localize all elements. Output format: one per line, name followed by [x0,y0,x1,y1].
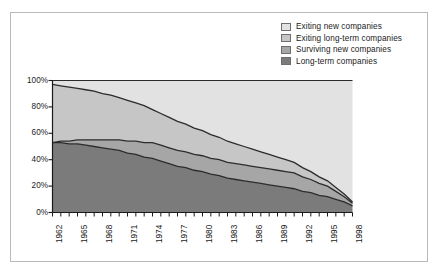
x-axis-tick-label: 1992 [306,225,314,243]
y-axis-tick-label: 60% [32,129,48,137]
x-axis-tick-label: 1962 [56,225,64,243]
y-axis-tick-label: 20% [32,182,48,190]
x-axis-tick-label: 1968 [106,225,114,243]
x-axis-tick-label: 1965 [81,225,89,243]
x-axis-tick-label: 1983 [231,225,239,243]
y-axis-tick-label: 100% [27,77,48,85]
x-axis-tick-label: 1980 [206,225,214,243]
y-axis-tick-label: 80% [32,103,48,111]
x-axis-tick-label: 1986 [256,225,264,243]
y-axis-labels: 0%20%40%60%80%100% [16,74,48,218]
x-axis-tick-label: 1974 [156,225,164,243]
x-axis-tick-label: 1995 [331,225,339,243]
x-axis-tick-label: 1977 [181,225,189,243]
x-axis-labels: 1962196519681971197419771980198319861989… [0,216,441,262]
x-axis-tick-label: 1989 [281,225,289,243]
x-axis-tick-label: 1998 [356,225,364,243]
y-axis-tick-label: 40% [32,156,48,164]
x-axis-tick-label: 1971 [131,225,139,243]
